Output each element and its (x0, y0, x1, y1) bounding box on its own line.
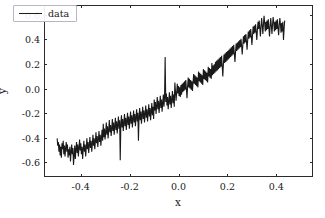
x-tick-label: -0.4 (72, 181, 90, 192)
x-tick-mark-top (276, 5, 277, 8)
y-tick-label: -0.6 (22, 157, 40, 168)
y-tick-label: 0.2 (25, 58, 40, 69)
y-tick-label: -0.4 (22, 132, 40, 143)
y-tick-mark (44, 162, 47, 163)
y-tick-label: -0.2 (22, 108, 40, 119)
y-tick-label: 0.4 (25, 34, 40, 45)
y-tick-mark (44, 39, 47, 40)
y-tick-mark-right (310, 138, 313, 139)
x-axis-label: x (175, 196, 181, 208)
plot-axes (44, 5, 313, 177)
x-tick-mark (276, 174, 277, 177)
x-tick-mark-top (179, 5, 180, 8)
x-tick-label: -0.2 (120, 181, 138, 192)
chart-figure: -0.6-0.4-0.20.00.20.40.6-0.4-0.20.00.20.… (0, 0, 325, 218)
y-axis-label: y (0, 88, 8, 94)
x-tick-mark-top (81, 5, 82, 8)
y-tick-mark-right (310, 89, 313, 90)
y-tick-mark (44, 89, 47, 90)
y-tick-mark (44, 64, 47, 65)
legend-line-sample (19, 13, 42, 14)
legend-box: data (13, 5, 77, 22)
x-tick-label: 0.4 (269, 181, 284, 192)
y-tick-label: 0.0 (25, 83, 40, 94)
x-tick-label: 0.2 (220, 181, 235, 192)
x-tick-mark-top (130, 5, 131, 8)
x-tick-mark (81, 174, 82, 177)
x-tick-mark (227, 174, 228, 177)
y-tick-mark (44, 138, 47, 139)
x-tick-label: 0.0 (171, 181, 186, 192)
x-tick-mark (179, 174, 180, 177)
y-tick-mark-right (310, 162, 313, 163)
y-tick-mark (44, 113, 47, 114)
legend-label-data: data (48, 8, 69, 19)
x-tick-mark-top (227, 5, 228, 8)
y-tick-mark-right (310, 64, 313, 65)
y-tick-mark-right (310, 113, 313, 114)
x-tick-mark (130, 174, 131, 177)
data-line-series (45, 6, 312, 176)
y-tick-mark-right (310, 15, 313, 16)
y-tick-mark-right (310, 39, 313, 40)
